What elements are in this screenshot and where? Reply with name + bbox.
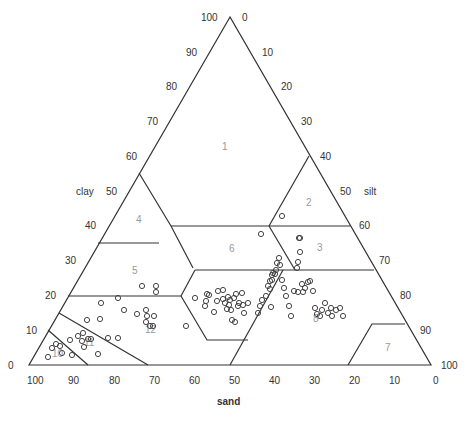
region-label-3: 3 (317, 242, 323, 253)
clay-tick-60: 60 (126, 151, 138, 162)
sample-point (67, 337, 72, 342)
clay-tick-40: 40 (85, 220, 97, 231)
silt-tick-90: 90 (420, 325, 432, 336)
silt-tick-20: 20 (281, 81, 293, 92)
boundary-region-4-right (139, 173, 193, 268)
region-label-7: 7 (385, 342, 391, 353)
region-boundaries (48, 156, 405, 365)
region-label-6: 6 (229, 243, 235, 254)
sand-tick-90: 90 (68, 375, 80, 386)
sample-point (121, 307, 126, 312)
sample-point (214, 298, 219, 303)
sample-point (153, 289, 158, 294)
clay-tick-80: 80 (166, 81, 178, 92)
silt-tick-100: 100 (441, 360, 458, 371)
region-labels: 1 2 3 4 5 6 7 8 10 11 12 (52, 141, 391, 359)
soil-texture-ternary-diagram: 1 2 3 4 5 6 7 8 10 11 12 0 10 20 30 40 5… (0, 0, 473, 421)
sample-point (203, 298, 208, 303)
region-label-2: 2 (306, 197, 312, 208)
clay-axis-label: clay (76, 186, 94, 197)
sand-tick-40: 40 (269, 375, 281, 386)
clay-axis-ticks: 0 10 20 30 40 50 60 70 80 90 100 clay (8, 12, 218, 371)
sand-tick-70: 70 (149, 375, 161, 386)
silt-axis-label: silt (364, 186, 376, 197)
sample-point (279, 213, 284, 218)
sample-point (245, 300, 250, 305)
region-label-4: 4 (136, 214, 142, 225)
sample-point (211, 309, 216, 314)
sample-point (115, 335, 120, 340)
clay-tick-0: 0 (8, 360, 14, 371)
sample-point (144, 313, 149, 318)
sample-point (235, 303, 240, 308)
sand-tick-100: 100 (27, 375, 44, 386)
silt-axis-ticks: 0 10 20 30 40 50 60 70 80 90 100 silt (242, 12, 458, 371)
silt-tick-0: 0 (242, 12, 248, 23)
sand-tick-20: 20 (349, 375, 361, 386)
sample-point (97, 316, 102, 321)
sample-point (312, 305, 317, 310)
sample-point (340, 313, 345, 318)
sample-point (134, 311, 139, 316)
sample-point (319, 307, 324, 312)
sample-point (95, 351, 100, 356)
sample-point (220, 287, 225, 292)
boundary-region-7 (348, 324, 405, 365)
sample-point (310, 288, 315, 293)
boundary-region-8-left (230, 270, 283, 365)
sample-point (202, 303, 207, 308)
sample-point (268, 304, 273, 309)
clay-tick-50: 50 (106, 186, 118, 197)
clay-tick-100: 100 (201, 12, 218, 23)
sample-point (45, 354, 50, 359)
sample-point (276, 255, 281, 260)
region-label-1: 1 (222, 141, 228, 152)
sample-point (192, 295, 197, 300)
sample-point (151, 313, 156, 318)
sample-point (328, 305, 333, 310)
sand-tick-30: 30 (309, 375, 321, 386)
sample-point (322, 300, 327, 305)
sand-axis-label: sand (217, 396, 240, 407)
sand-tick-50: 50 (229, 375, 241, 386)
silt-tick-70: 70 (379, 255, 391, 266)
clay-tick-20: 20 (45, 290, 57, 301)
clay-tick-90: 90 (186, 47, 198, 58)
silt-tick-10: 10 (262, 47, 274, 58)
clay-tick-70: 70 (147, 116, 159, 127)
sample-point (279, 277, 284, 282)
sample-point (288, 313, 293, 318)
sample-point (241, 310, 246, 315)
sample-point (80, 330, 85, 335)
sample-point (153, 283, 158, 288)
silt-tick-80: 80 (400, 290, 412, 301)
clay-tick-30: 30 (65, 255, 77, 266)
sample-point (329, 313, 334, 318)
sample-point (257, 303, 262, 308)
boundary-region-12-right (181, 270, 195, 296)
sample-point (84, 317, 89, 322)
sample-point (281, 285, 286, 290)
sample-point (139, 283, 144, 288)
sample-point (75, 333, 80, 338)
sand-tick-10: 10 (389, 375, 401, 386)
sand-tick-60: 60 (189, 375, 201, 386)
sand-tick-0: 0 (433, 375, 439, 386)
silt-tick-40: 40 (320, 151, 332, 162)
sample-point (283, 293, 288, 298)
sample-point (295, 259, 300, 264)
boundary-region-2-left (269, 156, 309, 226)
silt-tick-60: 60 (359, 220, 371, 231)
sand-axis-ticks: 100 90 80 70 60 50 40 30 20 10 0 sand (27, 375, 439, 407)
sample-point (98, 300, 103, 305)
sample-point (258, 231, 263, 236)
sample-points (45, 213, 345, 359)
sample-point (143, 307, 148, 312)
sample-point (297, 249, 302, 254)
region-label-5: 5 (132, 265, 138, 276)
sample-point (69, 352, 74, 357)
clay-tick-10: 10 (26, 325, 38, 336)
sample-point (286, 303, 291, 308)
silt-tick-30: 30 (301, 116, 313, 127)
sample-point (183, 323, 188, 328)
